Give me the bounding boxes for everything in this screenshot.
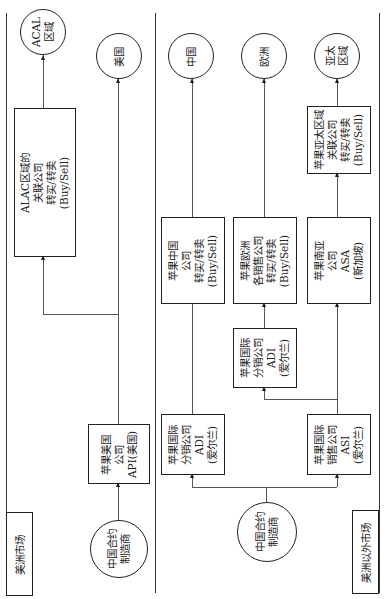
box-label: 苹果美国 [100,431,113,478]
left-boundary-line [6,13,7,596]
acal-region-node: ACAL区域 [20,9,66,55]
china-manufacturer-node-americas: 中国合约制造商 [90,520,148,578]
box-label: 公司 [326,241,339,281]
box-label: 转买/转卖 [265,234,278,286]
adi-china-box: 苹果国际 分销公司 ADI (爱尔兰) [161,414,225,475]
box-label: (Buy/Sell) [278,234,291,286]
connector-line [266,487,267,502]
connector-line [192,78,193,217]
box-label: 苹果中国 [167,234,180,286]
box-label: 公司 [180,234,193,286]
connector-line [264,78,265,217]
box-label: 苹果国际 [239,338,252,378]
apple-europe-box: 苹果欧洲 各销售公司 转买/转卖 (Buy/Sell) [233,217,297,304]
connector-line [264,399,337,400]
box-label: ASI [339,425,352,465]
connector-line [192,487,337,488]
right-boundary-line [379,13,380,593]
api-box: 苹果美国 公司 API(美国) [88,424,150,484]
connector-line [118,78,119,424]
box-label: 关联公司 [32,152,45,212]
apple-china-box: 苹果中国 公司 转买/转卖 (Buy/Sell) [161,217,225,304]
connector-line [43,314,118,315]
china-market-node: 中国 [168,33,214,79]
box-label: 各销售公司 [252,234,265,286]
box-label: 分销公司 [252,338,265,378]
node-label: 中国 [185,46,198,66]
box-label: (爱尔兰) [206,425,219,465]
connector-line [337,172,338,217]
box-label: 销售公司 [326,425,339,465]
box-label: (爱尔兰) [278,338,291,378]
node-label: 制造商 [119,529,132,569]
europe-market-node: 欧洲 [241,33,287,79]
apac-affiliate-box: 苹果亚太区域 关联公司 转买/转卖 (Buy/Sell) [307,106,371,174]
box-label: 关联公司 [326,110,339,170]
box-label: (爱尔兰) [352,425,365,465]
box-label: 苹果国际 [167,425,180,465]
node-label: 区域 [43,17,56,47]
box-label: ASA [339,241,352,281]
node-label: 美国 [113,46,126,66]
usa-node: 美国 [96,33,142,79]
apac-market-node: 亚太区域 [314,33,360,79]
asi-box: 苹果国际 销售公司 ASI (爱尔兰) [307,414,371,475]
box-label: 转买/转卖 [339,110,352,170]
box-label: 分销公司 [180,425,193,465]
box-label: 苹果国际 [313,425,326,465]
node-label: 区域 [337,46,350,66]
non-americas-market-label: 美洲以外市场 [352,510,379,594]
box-label: API(美国) [126,431,139,478]
asa-box: 苹果南亚 公司 ASA (新加坡) [307,217,371,304]
box-label: 公司 [113,431,126,478]
box-label: ADI [193,425,206,465]
region-label: 美洲市场 [13,534,26,574]
node-label: 中国合约 [254,512,267,552]
china-manufacturer-node-non-americas: 中国合约制造商 [237,502,297,562]
node-label: 欧洲 [258,46,271,66]
box-label: (Buy/Sell) [58,152,71,212]
box-label: ADI [265,338,278,378]
node-label: 亚太 [324,46,337,66]
region-divider-line [155,13,156,593]
box-label: 转买/转卖 [193,234,206,286]
arrow-icon [41,55,45,60]
box-label: (Buy/Sell) [206,234,219,286]
alac-affiliate-box: ALAC区域的 关联公司 转买/转卖 (Buy/Sell) [14,108,76,257]
box-label: (Buy/Sell) [352,110,365,170]
node-label: ACAL [30,17,43,47]
box-label: 苹果南亚 [313,241,326,281]
adi-europe-box: 苹果国际 分销公司 ADI (爱尔兰) [233,328,297,388]
box-label: 苹果亚太区域 [313,110,326,170]
connector-line [192,302,193,414]
node-label: 中国合约 [106,529,119,569]
region-label: 美洲以外市场 [359,522,372,582]
connector-line [43,255,44,315]
box-label: ALAC区域的 [19,152,32,212]
box-label: (新加坡) [352,241,365,281]
node-label: 制造商 [267,512,280,552]
box-label: 转买/转卖 [45,152,58,212]
connector-line [337,302,338,414]
connector-line [118,482,119,520]
box-label: 苹果欧洲 [239,234,252,286]
americas-market-label: 美洲市场 [6,512,33,596]
connector-line [43,55,44,108]
